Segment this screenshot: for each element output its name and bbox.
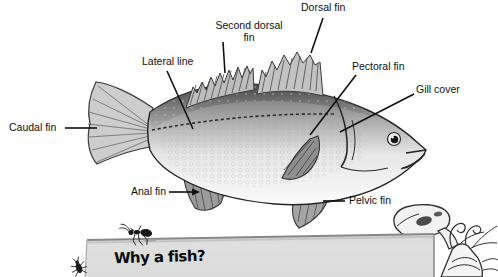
label-gill-cover: Gill cover <box>416 84 460 96</box>
label-second-dorsal-fin: Second dorsal fin <box>212 20 286 43</box>
fish-anatomy-page: Caudal fin Dorsal fin Second dorsal fin … <box>0 0 498 277</box>
card-heading: Why a fish? <box>114 247 205 267</box>
caudal-fin-shape <box>88 82 153 164</box>
crayfish-head <box>441 244 482 277</box>
dorsal-fin-shape <box>257 52 323 96</box>
label-dorsal-fin: Dorsal fin <box>301 2 345 14</box>
label-lateral-line: Lateral line <box>142 56 193 68</box>
fish-eye <box>388 133 401 146</box>
label-anal-fin: Anal fin <box>131 186 166 198</box>
leader-second-dorsal-fin <box>223 42 225 73</box>
label-pectoral-fin: Pectoral fin <box>352 61 405 73</box>
leader-dorsal-fin <box>311 18 323 53</box>
label-pelvic-fin: Pelvic fin <box>349 195 391 207</box>
label-caudal-fin: Caudal fin <box>9 122 56 134</box>
